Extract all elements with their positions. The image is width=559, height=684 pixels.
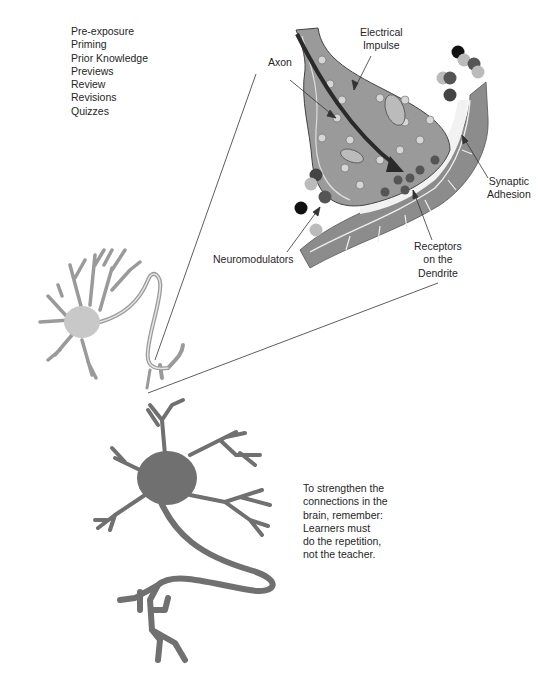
small-neuron-soma [64,306,100,338]
zoom-line-upper [155,74,256,360]
zoom-line-lower [148,283,438,393]
list-item: Previews [71,65,148,78]
label-line: on the [414,253,462,266]
label-line: Adhesion [487,188,531,201]
note-line: Learners must [303,522,388,535]
reinforcement-strategies-list: Pre-exposure Priming Prior Knowledge Pre… [71,25,148,118]
list-item: Quizzes [71,105,148,118]
list-item: Prior Knowledge [71,52,148,65]
label-synaptic-adhesion: Synaptic Adhesion [487,175,531,202]
note-line: connections in the [303,495,388,508]
note-line: not the teacher. [303,548,388,561]
list-item: Review [71,78,148,91]
label-line: Impulse [360,39,403,52]
label-line: Synaptic [487,175,531,188]
list-item: Revisions [71,91,148,104]
list-item: Pre-exposure [71,25,148,38]
note-line: do the repetition, [303,535,388,548]
label-line: Dendrite [414,267,462,280]
note-line: To strengthen the [303,482,388,495]
label-line: Receptors [414,240,462,253]
label-receptors: Receptors on the Dendrite [414,240,462,280]
small-neuron [40,250,183,388]
label-electrical-impulse: Electrical Impulse [360,26,403,53]
label-neuromodulators: Neuromodulators [213,253,294,266]
label-line: Electrical [360,26,403,39]
label-axon: Axon [268,56,292,69]
note-line: brain, remember: [303,509,388,522]
large-neuron-soma [137,451,197,505]
list-item: Priming [71,38,148,51]
large-neuron [95,400,273,660]
repetition-note: To strengthen the connections in the bra… [303,482,388,562]
